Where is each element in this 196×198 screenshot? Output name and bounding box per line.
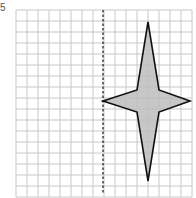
star-shape xyxy=(103,22,190,181)
reflection-grid-diagram xyxy=(0,0,196,198)
